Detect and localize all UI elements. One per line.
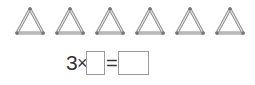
answer-blank-2[interactable] — [118, 51, 149, 75]
multiplication-equation: 3 × = — [0, 0, 255, 85]
equals-symbol: = — [106, 50, 118, 76]
answer-blank-1[interactable] — [86, 51, 105, 75]
factor-number: 3 — [66, 50, 78, 76]
